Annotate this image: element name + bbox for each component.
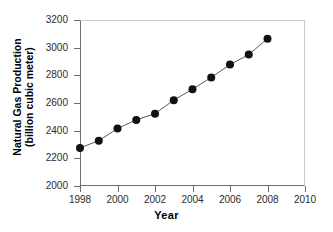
y-tick-label-2600: 2600 xyxy=(8,98,68,108)
y-tick-mark-2400 xyxy=(74,131,80,132)
x-tick-mark-2010 xyxy=(305,186,306,192)
y-tick-mark-3200 xyxy=(74,20,80,21)
x-tick-mark-2006 xyxy=(230,186,231,192)
x-tick-label-2010: 2010 xyxy=(282,194,328,205)
x-tick-mark-2004 xyxy=(193,186,194,192)
y-tick-mark-2800 xyxy=(74,75,80,76)
y-tick-label-3200: 3200 xyxy=(8,15,68,25)
y-tick-label-2000: 2000 xyxy=(8,181,68,191)
y-tick-mark-2200 xyxy=(74,158,80,159)
x-tick-mark-2002 xyxy=(155,186,156,192)
y-tick-label-3000: 3000 xyxy=(8,43,68,53)
y-tick-mark-2600 xyxy=(74,103,80,104)
y-axis-title-line-1: Natural Gas Production xyxy=(11,38,23,155)
y-tick-label-2200: 2200 xyxy=(8,153,68,163)
y-axis-title: Natural Gas Production (billion cubic me… xyxy=(6,2,40,192)
x-tick-mark-2008 xyxy=(268,186,269,192)
y-tick-label-2800: 2800 xyxy=(8,70,68,80)
x-axis-title: Year xyxy=(0,209,333,221)
plot-area xyxy=(80,20,305,186)
y-tick-label-2400: 2400 xyxy=(8,126,68,136)
x-tick-mark-1998 xyxy=(80,186,81,192)
y-tick-mark-3000 xyxy=(74,48,80,49)
chart-container: Natural Gas Production (billion cubic me… xyxy=(0,0,333,232)
x-tick-mark-2000 xyxy=(118,186,119,192)
